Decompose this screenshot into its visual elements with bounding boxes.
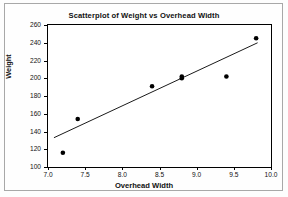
- x-axis-title: Overhead Width: [0, 181, 288, 190]
- y-tick-mark: [44, 61, 47, 62]
- y-tick-label: 120: [19, 145, 41, 152]
- x-tick-mark: [234, 167, 235, 170]
- scatterplot-figure: Scatterplot of Weight vs Overhead Width …: [0, 0, 288, 197]
- x-tick-label: 8.0: [110, 171, 134, 178]
- x-tick-label: 10.0: [259, 171, 283, 178]
- y-tick-label: 240: [19, 39, 41, 46]
- chart-title: Scatterplot of Weight vs Overhead Width: [0, 11, 288, 20]
- x-tick-label: 8.5: [148, 171, 172, 178]
- data-points: [61, 36, 259, 155]
- x-tick-mark: [160, 167, 161, 170]
- y-tick-label: 180: [19, 92, 41, 99]
- y-tick-mark: [44, 96, 47, 97]
- x-tick-mark: [122, 167, 123, 170]
- x-tick-label: 9.0: [185, 171, 209, 178]
- trend-line: [54, 43, 258, 138]
- x-tick-label: 7.5: [73, 171, 97, 178]
- y-tick-mark: [44, 114, 47, 115]
- y-tick-mark: [44, 132, 47, 133]
- y-tick-mark: [44, 149, 47, 150]
- x-tick-label: 9.5: [222, 171, 246, 178]
- regression-line: [54, 43, 258, 138]
- x-tick-mark: [197, 167, 198, 170]
- data-point: [254, 36, 259, 41]
- y-tick-label: 160: [19, 110, 41, 117]
- plot-canvas: [48, 25, 271, 167]
- y-tick-label: 220: [19, 57, 41, 64]
- y-tick-label: 140: [19, 128, 41, 135]
- y-tick-mark: [44, 43, 47, 44]
- x-tick-mark: [48, 167, 49, 170]
- y-tick-label: 200: [19, 74, 41, 81]
- data-point: [150, 84, 155, 89]
- plot-area: [47, 24, 272, 168]
- x-tick-label: 7.0: [36, 171, 60, 178]
- y-tick-mark: [44, 167, 47, 168]
- data-point: [224, 74, 229, 79]
- data-point: [180, 74, 185, 79]
- y-tick-label: 100: [19, 163, 41, 170]
- y-tick-label: 260: [19, 21, 41, 28]
- data-point: [75, 117, 80, 122]
- data-point: [61, 151, 66, 156]
- x-tick-mark: [85, 167, 86, 170]
- x-tick-mark: [271, 167, 272, 170]
- y-tick-mark: [44, 25, 47, 26]
- y-axis-title: Weight: [4, 37, 13, 97]
- y-tick-mark: [44, 78, 47, 79]
